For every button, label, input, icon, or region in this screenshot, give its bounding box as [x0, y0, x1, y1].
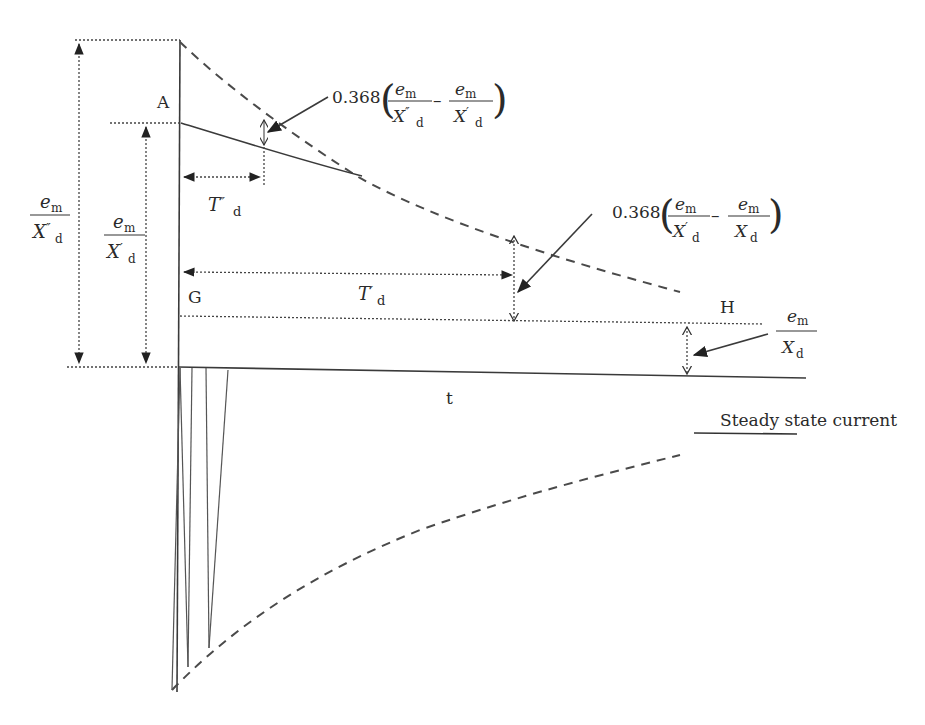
t-transient-label: T′ d — [358, 283, 385, 308]
svg-text:e: e — [675, 194, 685, 214]
transient-current-label: e m X′ d — [104, 211, 145, 266]
svg-text:d: d — [128, 252, 136, 266]
time-axis — [178, 367, 806, 378]
transient-annotation-pointer — [518, 214, 592, 292]
svg-text:X: X — [733, 221, 748, 241]
svg-text:e: e — [787, 306, 797, 326]
svg-text:–: – — [433, 90, 442, 110]
subtransient-annotation-pointer — [268, 97, 328, 132]
svg-text:d: d — [416, 116, 424, 130]
steady-state-current-fraction: e m X d — [776, 306, 817, 361]
svg-text:e: e — [40, 191, 51, 212]
steady-state-reference-line — [180, 316, 762, 324]
svg-text:d: d — [692, 231, 700, 245]
t-transient-arrow — [184, 272, 512, 275]
time-axis-label: t — [446, 388, 453, 408]
steady-state-pointer — [694, 334, 768, 355]
transient-decay-annotation: 0.368 ( e m X′ d – e m X d ) — [612, 191, 784, 245]
svg-text:d: d — [475, 116, 483, 130]
point-g-label: G — [188, 287, 202, 307]
svg-text:d: d — [377, 293, 385, 308]
svg-text:e: e — [113, 211, 124, 232]
svg-text:e: e — [395, 79, 405, 99]
svg-text:e: e — [455, 79, 465, 99]
lower-envelope — [172, 455, 680, 690]
svg-text:): ) — [768, 191, 784, 237]
svg-text:m: m — [797, 314, 809, 328]
svg-text:d: d — [750, 231, 758, 245]
svg-text:m: m — [51, 201, 63, 215]
point-h-label: H — [720, 297, 735, 317]
subtransient-envelope — [180, 42, 680, 292]
oscillation-waveform — [172, 368, 228, 690]
svg-text:d: d — [233, 204, 241, 219]
subtransient-decay-annotation: 0.368 ( e m X″ d – e m X′ d ) — [332, 76, 508, 130]
point-a-label: A — [156, 92, 170, 112]
svg-text:X″: X″ — [31, 221, 51, 242]
svg-text:): ) — [492, 76, 508, 122]
svg-text:m: m — [405, 87, 417, 101]
transient-envelope — [181, 123, 362, 176]
t-subtransient-label: T″ d — [208, 194, 241, 219]
svg-text:m: m — [465, 87, 477, 101]
subtransient-current-label: e m X″ d — [30, 191, 70, 246]
svg-text:m: m — [748, 202, 760, 216]
svg-text:X: X — [780, 337, 795, 357]
svg-text:m: m — [124, 221, 136, 235]
steady-state-label: Steady state current — [720, 410, 897, 430]
svg-text:X″: X″ — [391, 106, 410, 126]
svg-text:e: e — [738, 194, 748, 214]
short-circuit-diagram: A G H t T″ d T′ d e m X″ d e m X′ d 0.36… — [0, 0, 925, 725]
svg-text:0.368: 0.368 — [612, 202, 661, 222]
svg-text:d: d — [796, 347, 804, 361]
steady-state-underline — [694, 433, 797, 434]
svg-text:X′: X′ — [671, 221, 688, 241]
svg-text:T′: T′ — [358, 283, 373, 304]
svg-text:m: m — [685, 202, 697, 216]
svg-text:X′: X′ — [452, 106, 469, 126]
svg-text:X′: X′ — [105, 241, 123, 262]
svg-text:d: d — [55, 232, 63, 246]
svg-text:T″: T″ — [208, 194, 225, 215]
current-axis — [177, 40, 180, 692]
svg-text:–: – — [711, 205, 720, 225]
svg-text:0.368: 0.368 — [332, 87, 381, 107]
